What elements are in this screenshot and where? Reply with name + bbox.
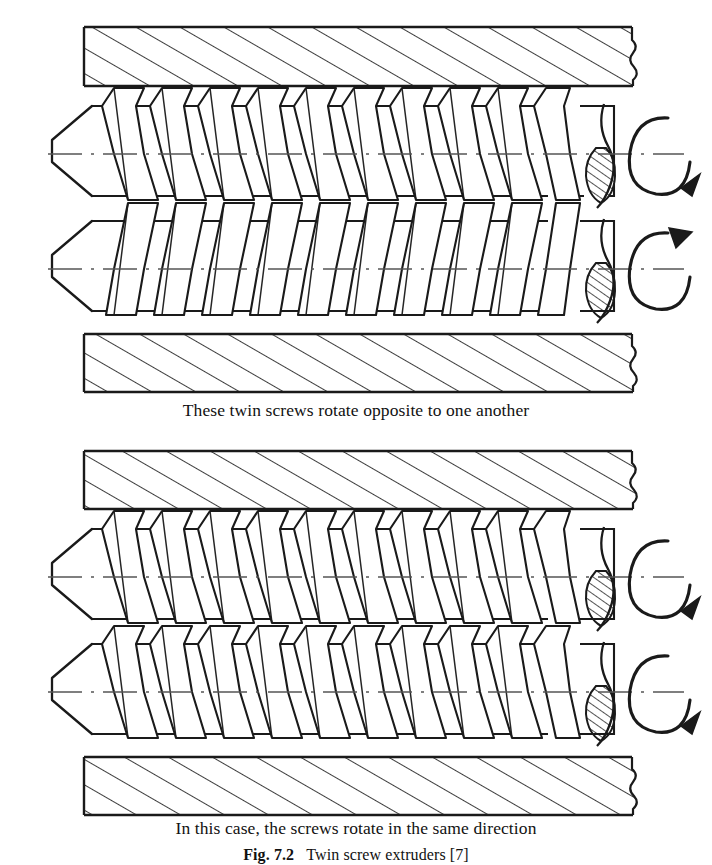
screw-top-lower: [52, 203, 614, 315]
twin-screw-extruder-drawing: [0, 0, 712, 865]
barrel-wall-top-bottom: [84, 334, 637, 392]
caption-co-rotating: In this case, the screws rotate in the s…: [0, 818, 712, 839]
barrel-wall-bottom-bottom: [84, 757, 637, 815]
figure-title: Twin screw extruders [7]: [306, 846, 469, 863]
figure-twin-screw-extruder: These twin screws rotate opposite to one…: [0, 0, 712, 865]
caption-counter-rotating: These twin screws rotate opposite to one…: [0, 400, 712, 421]
figure-number: Fig. 7.2: [243, 846, 306, 863]
barrel-wall-bottom-top: [84, 451, 637, 509]
figure-caption: Fig. 7.2Twin screw extruders [7]: [0, 846, 712, 865]
barrel-wall-top: [84, 27, 637, 86]
